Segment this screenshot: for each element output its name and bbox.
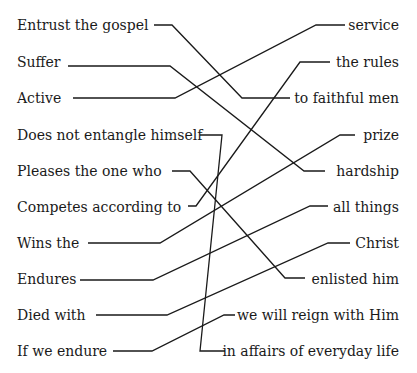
connector-line xyxy=(113,315,235,351)
left-item: If we endure xyxy=(17,343,107,359)
left-item: Pleases the one who xyxy=(17,163,162,179)
right-item: prize xyxy=(363,127,399,143)
connector-line xyxy=(154,25,290,98)
left-item: Died with xyxy=(17,307,86,323)
left-item: Does not entangle himself xyxy=(17,127,202,143)
right-item: to faithful men xyxy=(294,90,399,106)
right-item: in affairs of everyday life xyxy=(222,343,399,359)
right-item: enlisted him xyxy=(311,271,399,287)
left-item: Active xyxy=(17,90,61,106)
connector-line xyxy=(188,62,330,206)
left-item: Suffer xyxy=(17,54,61,70)
right-item: hardship xyxy=(336,163,399,179)
left-item: Competes according to xyxy=(17,199,181,215)
right-item: we will reign with Him xyxy=(237,307,399,323)
left-item: Entrust the gospel xyxy=(17,17,149,33)
right-item: the rules xyxy=(336,54,399,70)
right-item: all things xyxy=(333,199,399,215)
right-item: Christ xyxy=(355,235,399,251)
left-item: Wins the xyxy=(17,235,79,251)
connector-line xyxy=(200,135,225,351)
right-item: service xyxy=(348,17,399,33)
left-item: Endures xyxy=(17,271,76,287)
connector-line xyxy=(88,135,355,243)
